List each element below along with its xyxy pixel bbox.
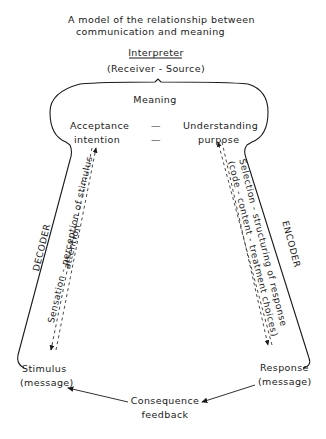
response-label: Response: [260, 363, 309, 373]
intention-label: intention: [74, 135, 120, 145]
purpose-label: purpose: [198, 135, 239, 145]
acceptance-label: Acceptance: [70, 121, 129, 131]
response-to-feedback-arrow: [202, 385, 255, 402]
meaning-dash-1: —: [151, 121, 161, 131]
interpreter-label: Interpreter: [128, 48, 184, 58]
meaning-label: Meaning: [133, 95, 176, 105]
interpreter-sublabel: (Receiver - Source): [107, 64, 205, 74]
title-line-1: A model of the relationship between: [68, 15, 255, 25]
feedback-to-stimulus-arrow: [68, 388, 128, 402]
consequence-label: Consequence: [131, 396, 200, 406]
feedback-label: feedback: [142, 410, 189, 420]
response-sublabel: (message): [258, 377, 312, 387]
meaning-dash-2: —: [151, 135, 161, 145]
title-line-2: communication and meaning: [76, 27, 225, 37]
stimulus-label: Stimulus: [22, 364, 66, 374]
stimulus-sublabel: (message): [20, 378, 74, 388]
understanding-label: Understanding: [183, 121, 258, 131]
